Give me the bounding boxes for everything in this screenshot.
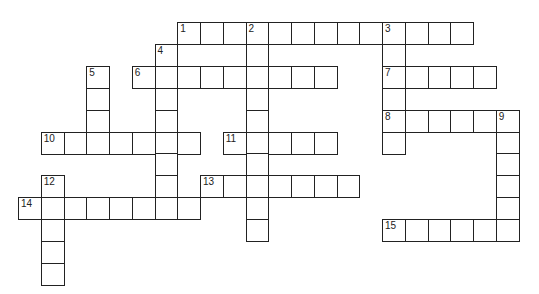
crossword-cell[interactable]	[155, 110, 179, 133]
crossword-cell[interactable]	[223, 22, 247, 45]
clue-number: 14	[21, 198, 32, 209]
crossword-cell[interactable]	[359, 22, 383, 45]
clue-number: 5	[89, 67, 95, 78]
crossword-cell[interactable]	[291, 66, 315, 89]
crossword-cell[interactable]: 9	[496, 110, 520, 133]
crossword-cell[interactable]: 11	[223, 132, 247, 155]
crossword-cell[interactable]	[450, 219, 474, 242]
crossword-cell[interactable]	[64, 132, 88, 155]
crossword-cell[interactable]	[132, 132, 156, 155]
crossword-cell[interactable]	[246, 153, 270, 176]
crossword-cell[interactable]	[268, 66, 292, 89]
crossword-cell[interactable]	[405, 66, 429, 89]
crossword-cell[interactable]	[496, 219, 520, 242]
crossword-cell[interactable]	[405, 110, 429, 133]
crossword-cell[interactable]: 14	[18, 197, 42, 220]
clue-number: 12	[44, 176, 55, 187]
crossword-cell[interactable]	[64, 197, 88, 220]
crossword-cell[interactable]: 13	[200, 175, 224, 198]
crossword-cell[interactable]: 2	[246, 22, 270, 45]
crossword-cell[interactable]	[473, 219, 497, 242]
crossword-cell[interactable]	[314, 175, 338, 198]
crossword-cell[interactable]: 12	[41, 175, 65, 198]
crossword-cell[interactable]	[246, 110, 270, 133]
crossword-cell[interactable]	[155, 175, 179, 198]
clue-number: 4	[158, 45, 164, 56]
crossword-cell[interactable]	[405, 22, 429, 45]
crossword-cell[interactable]	[473, 66, 497, 89]
clue-number: 15	[385, 220, 396, 231]
crossword-cell[interactable]	[496, 175, 520, 198]
crossword-cell[interactable]	[246, 219, 270, 242]
crossword-cell[interactable]	[337, 22, 361, 45]
crossword-cell[interactable]	[382, 88, 406, 111]
crossword-cell[interactable]	[291, 22, 315, 45]
crossword-cell[interactable]: 10	[41, 132, 65, 155]
crossword-cell[interactable]: 6	[132, 66, 156, 89]
crossword-cell[interactable]: 5	[86, 66, 110, 89]
crossword-cell[interactable]	[132, 197, 156, 220]
crossword-cell[interactable]	[246, 175, 270, 198]
crossword-cell[interactable]	[41, 263, 65, 286]
crossword-cell[interactable]	[268, 22, 292, 45]
crossword-cell[interactable]	[428, 22, 452, 45]
crossword-cell[interactable]	[382, 44, 406, 67]
crossword-cell[interactable]	[86, 110, 110, 133]
crossword-cell[interactable]	[337, 175, 361, 198]
crossword-cell[interactable]	[155, 88, 179, 111]
crossword-cell[interactable]	[314, 22, 338, 45]
crossword-cell[interactable]	[450, 66, 474, 89]
clue-number: 7	[385, 67, 391, 78]
crossword-cell[interactable]	[405, 219, 429, 242]
crossword-cell[interactable]	[246, 88, 270, 111]
crossword-cell[interactable]	[41, 219, 65, 242]
crossword-cell[interactable]	[200, 66, 224, 89]
crossword-cell[interactable]	[314, 66, 338, 89]
crossword-cell[interactable]	[155, 66, 179, 89]
crossword-cell[interactable]	[246, 132, 270, 155]
crossword-cell[interactable]	[450, 110, 474, 133]
crossword-cell[interactable]: 8	[382, 110, 406, 133]
crossword-cell[interactable]	[268, 175, 292, 198]
crossword-cell[interactable]	[155, 197, 179, 220]
crossword-cell[interactable]	[291, 132, 315, 155]
crossword-cell[interactable]	[268, 132, 292, 155]
crossword-cell[interactable]	[223, 175, 247, 198]
crossword-cell[interactable]	[473, 110, 497, 133]
crossword-cell[interactable]	[155, 153, 179, 176]
crossword-cell[interactable]	[177, 197, 201, 220]
crossword-cell[interactable]: 4	[155, 44, 179, 67]
crossword-cell[interactable]	[496, 197, 520, 220]
crossword-cell[interactable]	[246, 197, 270, 220]
clue-number: 8	[385, 111, 391, 122]
crossword-cell[interactable]	[86, 88, 110, 111]
crossword-cell[interactable]	[496, 132, 520, 155]
crossword-cell[interactable]	[86, 197, 110, 220]
crossword-cell[interactable]	[496, 153, 520, 176]
crossword-cell[interactable]	[246, 44, 270, 67]
crossword-cell[interactable]: 15	[382, 219, 406, 242]
crossword-cell[interactable]: 1	[177, 22, 201, 45]
crossword-cell[interactable]	[223, 66, 247, 89]
crossword-cell[interactable]	[428, 66, 452, 89]
crossword-cell[interactable]	[428, 219, 452, 242]
crossword-cell[interactable]	[109, 132, 133, 155]
crossword-cell[interactable]	[41, 197, 65, 220]
crossword-cell[interactable]	[41, 241, 65, 264]
crossword-cell[interactable]	[177, 66, 201, 89]
crossword-cell[interactable]	[314, 132, 338, 155]
crossword-cell[interactable]	[86, 132, 110, 155]
crossword-cell[interactable]: 3	[382, 22, 406, 45]
clue-number: 10	[44, 133, 55, 144]
crossword-cell[interactable]	[382, 132, 406, 155]
crossword-cell[interactable]	[155, 132, 179, 155]
crossword-cell[interactable]	[109, 197, 133, 220]
crossword-cell[interactable]	[291, 175, 315, 198]
crossword-cell[interactable]	[450, 22, 474, 45]
crossword-cell[interactable]	[246, 66, 270, 89]
crossword-cell[interactable]	[177, 132, 201, 155]
crossword-cell[interactable]	[200, 22, 224, 45]
clue-number: 13	[203, 176, 214, 187]
crossword-cell[interactable]: 7	[382, 66, 406, 89]
crossword-cell[interactable]	[428, 110, 452, 133]
